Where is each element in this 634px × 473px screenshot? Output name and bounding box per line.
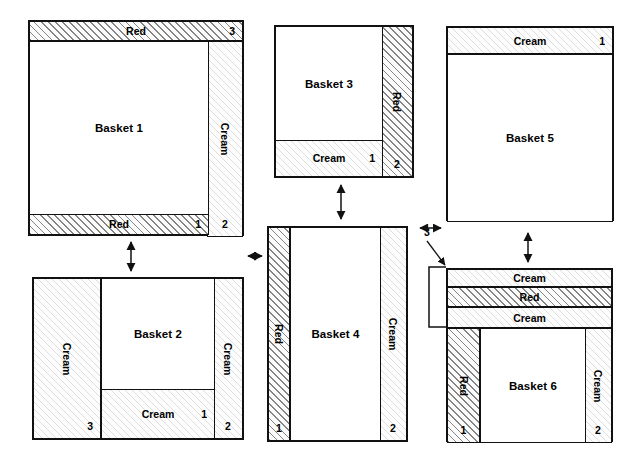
band-number: 2 [595,424,601,436]
band-number: 1 [276,422,282,434]
band-number: 2 [390,422,396,434]
band-number: 3 [87,420,93,432]
band-material-label: Cream [448,272,611,284]
band-material-label: Red [391,92,403,112]
basket-1-band-bottom-red: Red 1 [29,213,209,235]
basket-2-band-bottom-cream: Cream 1 [101,388,215,439]
basket-6: Cream Red Cream Red 1 Cream 2 Basket 6 [446,268,613,442]
band-material-label: Cream [102,408,214,420]
basket-2: Cream 3 Cream 2 Cream 1 Basket 2 [32,277,244,440]
basket-4-label: Basket 4 [311,328,359,340]
band-number: 1 [599,35,605,47]
band-number: 1 [461,424,467,436]
basket-4-core: Basket 4 [290,227,381,441]
basket-3-core: Basket 3 [275,26,383,141]
basket-5-core: Basket 5 [447,54,613,222]
band-material-label: Red [448,291,611,303]
basket-6-band-top-cream-outer: Cream [447,269,612,287]
basket-6-band-right-cream: Cream 2 [584,328,612,443]
basket-5: Cream 1 Basket 5 [446,26,614,221]
band-material-label: Red [458,376,470,396]
band-number: 3 [229,25,235,37]
band-material-label: Red [30,25,242,37]
basket-6-band-top-cream-inner: Cream [447,307,612,328]
basket-5-label: Basket 5 [506,132,554,144]
basket-1-core: Basket 1 [29,41,209,215]
basket-2-label: Basket 2 [134,328,182,340]
band-number: 1 [369,152,375,164]
band-material-label: Cream [592,369,604,402]
basket-6-band-left-red: Red 1 [447,328,480,443]
basket-3-band-right-red: Red 2 [381,26,413,177]
basket-1-band-top-red: Red 3 [29,21,243,41]
band-material-label: Cream [61,342,73,375]
basket-1: Red 3 Cream 2 Red 1 Basket 1 [28,20,244,236]
diagram-canvas: Red 3 Cream 2 Red 1 Basket 1 Cream 3 Cre… [0,0,634,473]
basket-2-core: Basket 2 [101,278,215,390]
basket-3-label: Basket 3 [305,78,353,90]
basket-6-core: Basket 6 [480,328,586,443]
basket-2-band-right-cream: Cream 2 [213,278,243,439]
band-material-label: Red [273,324,285,344]
basket-3: Red 2 Cream 1 Basket 3 [274,25,414,178]
band-material-label: Cream [448,35,612,47]
basket-5-band-top-cream: Cream 1 [447,27,613,54]
band-number: 2 [222,218,228,230]
basket-4: Red 1 Cream 2 Basket 4 [267,226,408,442]
band-material-label: Cream [222,342,234,375]
basket-6-band-top-red: Red [447,287,612,307]
band-number: 2 [394,158,400,170]
band-material-label: Cream [448,312,611,324]
band-material-label: Cream [276,152,382,164]
basket-6-bracket [426,266,448,328]
basket-6-bracket-number: 3 [424,226,430,238]
basket-6-bracket-arrow [424,238,452,270]
band-material-label: Cream [387,318,399,351]
basket-4-band-left-red: Red 1 [268,227,290,441]
band-number: 1 [195,218,201,230]
band-material-label: Cream [219,123,231,156]
band-material-label: Red [30,218,208,230]
basket-2-band-left-cream: Cream 3 [33,278,101,439]
basket-4-band-right-cream: Cream 2 [379,227,407,441]
basket-1-label: Basket 1 [95,122,143,134]
basket-3-band-bottom-cream: Cream 1 [275,139,383,177]
basket-6-label: Basket 6 [509,380,557,392]
basket-1-band-right-cream: Cream 2 [207,41,243,237]
band-number: 1 [201,408,207,420]
band-number: 2 [225,420,231,432]
